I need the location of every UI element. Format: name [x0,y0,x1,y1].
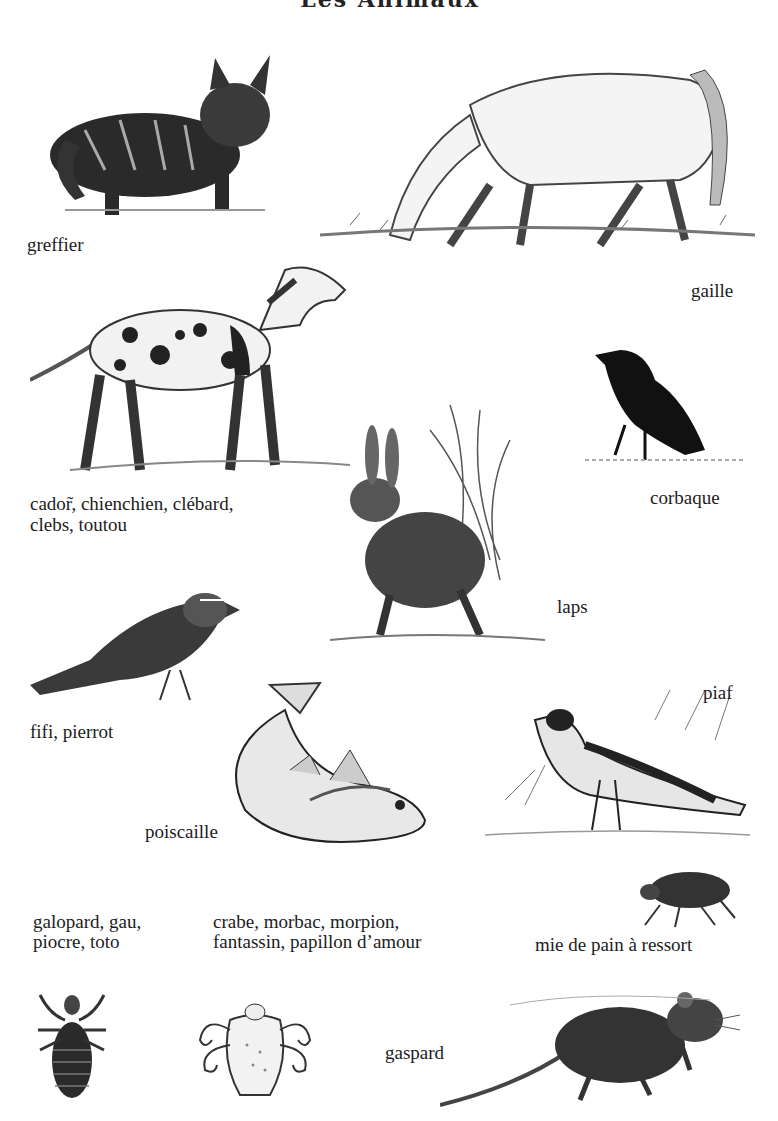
rat-illustration [440,975,740,1110]
dog-label-line-1: cador̃, chienchien, clébard, [30,494,233,514]
crab-louse-illustration [185,990,325,1105]
wagtail-label: piaf [703,683,733,703]
cat-illustration [25,40,280,220]
head-louse-label-line-2: piocre, toto [33,932,120,952]
fish-illustration [210,680,435,865]
wagtail-illustration [485,680,750,845]
horse-illustration [320,35,755,260]
flea-label: mie de pain à ressort [535,935,692,955]
crab-louse-label-line-1: crabe, morbac, morpion, [213,912,399,932]
crow-label: corbaque [650,488,720,508]
flea-illustration [630,860,740,930]
page-title: Les Animaux [270,0,510,12]
rabbit-illustration [330,400,545,645]
fish-label: poiscaille [145,822,218,842]
dog-illustration [30,235,355,480]
head-louse-illustration [35,980,110,1105]
rat-label: gaspard [385,1043,444,1063]
sparrow-label: fifi, pierrot [30,722,113,742]
horse-label: gaille [691,281,733,301]
dog-label-line-2: clebs, toutou [30,515,127,535]
crow-illustration [585,330,745,470]
rabbit-label: laps [557,597,588,617]
crab-louse-label-line-2: fantassin, papillon d’amour [213,932,421,952]
head-louse-label-line-1: galopard, gau, [33,912,141,932]
